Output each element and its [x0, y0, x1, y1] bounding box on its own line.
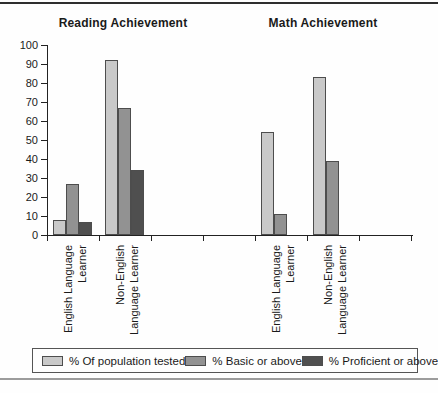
- y-tick-label: 60: [4, 115, 38, 127]
- figure-chart: Reading AchievementMath Achievement 0102…: [0, 0, 438, 393]
- y-tick-label: 40: [4, 153, 38, 165]
- y-tick-label: 70: [4, 96, 38, 108]
- x-group-label: English LanguageLearner: [269, 245, 297, 335]
- x-group-label-line: English Language: [61, 245, 75, 335]
- bar: [66, 184, 79, 235]
- x-tick-mark: [255, 236, 256, 241]
- x-tick-mark: [151, 236, 152, 241]
- panel-title: Reading Achievement: [33, 16, 213, 30]
- panel-title: Math Achievement: [233, 16, 413, 30]
- bar: [131, 170, 144, 235]
- bar: [105, 60, 118, 235]
- x-tick-mark: [307, 236, 308, 241]
- bar: [274, 214, 287, 235]
- bar: [326, 161, 339, 235]
- bar: [261, 132, 274, 235]
- y-tick-label: 90: [4, 58, 38, 70]
- y-tick-mark: [41, 64, 47, 65]
- y-tick-mark: [41, 83, 47, 84]
- y-tick-label: 10: [4, 210, 38, 222]
- y-tick-mark: [41, 102, 47, 103]
- y-tick-mark: [41, 216, 47, 217]
- legend-swatch-icon: [42, 356, 63, 366]
- x-tick-mark: [47, 236, 48, 241]
- x-group-label-line: Non-English: [321, 245, 335, 335]
- x-group-label-line: Learner: [75, 245, 89, 335]
- y-tick-mark: [41, 197, 47, 198]
- x-group-label: English LanguageLearner: [61, 245, 89, 335]
- y-tick-mark: [41, 159, 47, 160]
- y-tick-label: 50: [4, 134, 38, 146]
- x-group-label: Non-EnglishLanguage Learner: [113, 245, 141, 335]
- bar: [313, 77, 326, 235]
- x-tick-mark: [99, 236, 100, 241]
- x-group-label-line: Learner: [283, 245, 297, 335]
- x-group-label-line: Language Learner: [335, 245, 349, 335]
- legend-label: % Basic or above: [212, 355, 302, 367]
- legend-item: % Of population tested: [42, 355, 185, 367]
- x-tick-mark: [359, 236, 360, 241]
- x-tick-mark: [203, 236, 204, 241]
- y-tick-mark: [41, 178, 47, 179]
- legend-swatch-icon: [302, 356, 323, 366]
- y-tick-mark: [41, 121, 47, 122]
- x-group-label-line: English Language: [269, 245, 283, 335]
- y-tick-label: 100: [4, 39, 38, 51]
- bar: [53, 220, 66, 235]
- legend: % Of population tested% Basic or above% …: [32, 348, 418, 373]
- y-tick-label: 20: [4, 191, 38, 203]
- x-tick-mark: [411, 236, 412, 241]
- x-group-label-line: Non-English: [113, 245, 127, 335]
- top-rule: [0, 2, 438, 4]
- y-tick-mark: [41, 140, 47, 141]
- y-tick-mark: [41, 45, 47, 46]
- y-tick-label: 30: [4, 172, 38, 184]
- bottom-rule: [0, 378, 438, 380]
- legend-item: % Basic or above: [185, 355, 302, 367]
- y-tick-label: 80: [4, 77, 38, 89]
- legend-swatch-icon: [185, 356, 206, 366]
- legend-label: % Of population tested: [69, 355, 185, 367]
- y-axis-line: [47, 45, 48, 236]
- bar: [118, 108, 131, 235]
- y-tick-label: 0: [4, 229, 38, 241]
- legend-item: % Proficient or above: [302, 355, 438, 367]
- x-group-label-line: Language Learner: [127, 245, 141, 335]
- x-group-label: Non-EnglishLanguage Learner: [321, 245, 349, 335]
- bar: [79, 222, 92, 235]
- legend-label: % Proficient or above: [329, 355, 438, 367]
